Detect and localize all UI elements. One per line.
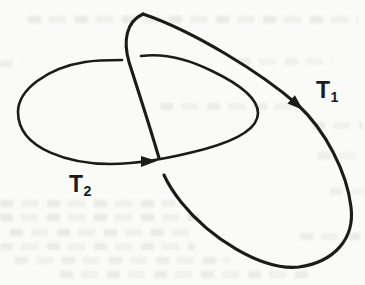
loop-t1-label-base: T <box>316 77 331 103</box>
loop-t1 <box>126 14 351 267</box>
loop-t1-main-path <box>143 14 351 267</box>
loop-t2 <box>18 55 258 167</box>
figure-canvas: T1 T2 <box>0 0 365 285</box>
arrow-right-icon <box>141 156 157 167</box>
loop-t1-label-subscript: 1 <box>331 89 339 105</box>
loop-t1-upper-left-path <box>126 14 159 158</box>
loop-t2-label: T2 <box>69 173 92 196</box>
loop-t1-label: T1 <box>316 79 339 102</box>
linked-loops-diagram <box>0 0 365 285</box>
loop-t2-main-path <box>18 55 258 164</box>
loop-t2-label-base: T <box>69 171 84 197</box>
loop-t2-label-subscript: 2 <box>84 183 92 199</box>
